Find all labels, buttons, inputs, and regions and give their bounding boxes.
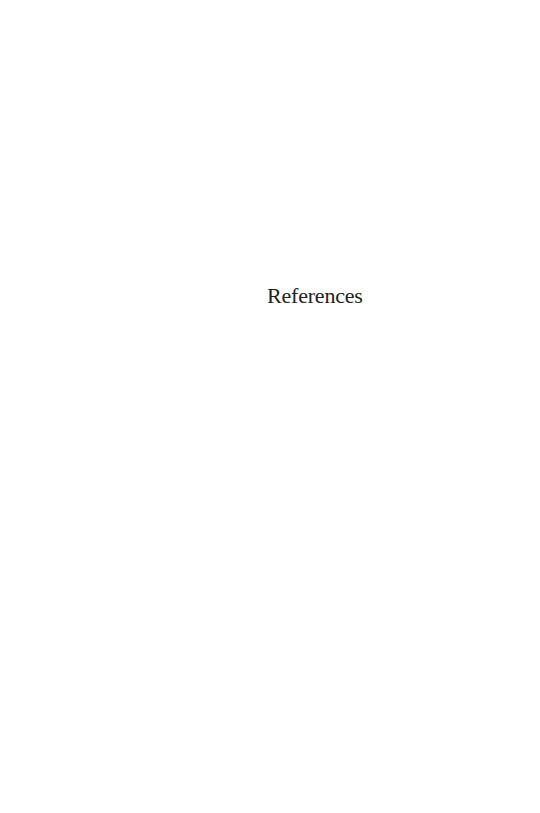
document-page: References [0, 0, 540, 813]
section-title: References [267, 282, 363, 310]
